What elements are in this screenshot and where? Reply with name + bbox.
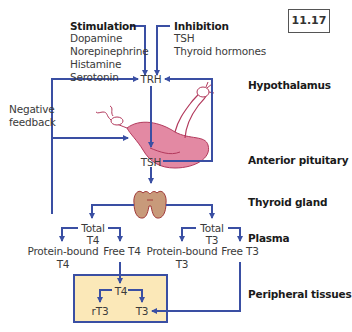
level-peripheral-tissues: Peripheral tissues — [248, 288, 352, 301]
node-total-t3-line1: Total — [200, 222, 224, 235]
level-hypothalamus: Hypothalamus — [248, 79, 331, 92]
level-thyroid-gland: Thyroid gland — [248, 196, 327, 209]
node-protein-bound-t4-line1: Protein-bound — [27, 245, 98, 258]
node-trh: TRH — [140, 73, 161, 86]
node-free-t4: Free T4 — [103, 245, 140, 258]
stimulation-title: Stimulation — [70, 20, 136, 33]
node-free-t3: Free T3 — [221, 245, 258, 258]
inhibition-title: Inhibition — [174, 20, 229, 33]
level-anterior-pituitary: Anterior pituitary — [248, 154, 348, 167]
node-protein-bound-t3-line1: Protein-bound — [146, 245, 217, 258]
inhibitor-tsh: TSH — [174, 32, 194, 45]
negative-feedback-label-line2: feedback — [9, 116, 56, 129]
negative-feedback-label-line1: Negative — [9, 103, 55, 116]
node-tissue-rt3: rT3 — [92, 305, 109, 318]
inhibitor-thyroid-hormones: Thyroid hormones — [174, 45, 266, 58]
thyroid-gland-illustration — [134, 191, 166, 218]
stimulator-dopamine: Dopamine — [70, 32, 122, 45]
node-protein-bound-t3-line2: T3 — [176, 258, 189, 271]
node-protein-bound-t4-line2: T4 — [57, 258, 70, 271]
stimulator-serotonin: Serotonin — [70, 71, 119, 84]
node-tissue-t3: T3 — [136, 305, 149, 318]
node-tsh: TSH — [141, 156, 161, 169]
node-tissue-t4: T4 — [115, 285, 128, 298]
node-total-t4-line1: Total — [81, 222, 105, 235]
stimulator-norepinephrine: Norepinephrine — [70, 45, 148, 58]
level-plasma: Plasma — [248, 232, 289, 245]
stimulator-histamine: Histamine — [70, 58, 121, 71]
